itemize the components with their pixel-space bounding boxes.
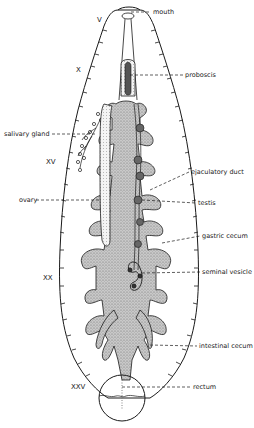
segment-marker-v: V xyxy=(97,17,102,24)
label-ejaculatory-duct: ejaculatory duct xyxy=(191,169,244,176)
mouth xyxy=(118,7,140,19)
label-mouth: mouth xyxy=(153,9,174,16)
proboscis xyxy=(125,62,131,95)
label-seminal-vesicle: seminal vesicle xyxy=(202,269,252,276)
label-rectum: rectum xyxy=(193,384,216,391)
segment-marker-xv: XV xyxy=(46,159,56,166)
label-proboscis: proboscis xyxy=(185,72,216,79)
ovary xyxy=(100,104,112,246)
segment-marker-xx: XX xyxy=(43,275,53,282)
label-intestinal-cecum: intestinal cecum xyxy=(199,343,253,350)
label-gastric-cecum: gastric cecum xyxy=(202,233,248,240)
leech-anatomy-diagram xyxy=(0,0,254,428)
segment-marker-x: X xyxy=(76,67,81,74)
label-ovary: ovary xyxy=(19,197,37,204)
label-salivary-gland: salivary gland xyxy=(4,131,50,138)
label-testis: testis xyxy=(198,200,216,207)
gastric-cecum xyxy=(81,101,170,380)
segment-marker-xxv: XXV xyxy=(71,384,85,391)
